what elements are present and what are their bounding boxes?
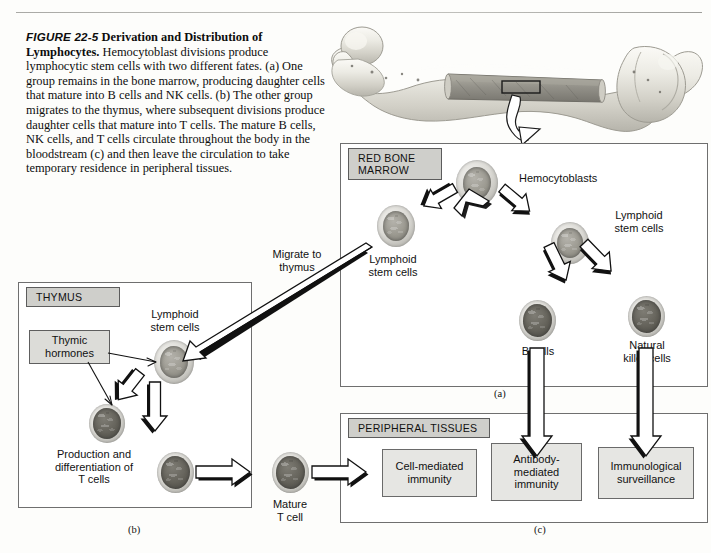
figure-canvas: FIGURE 22-5 Derivation and Distribution …	[0, 0, 711, 553]
cell-natural-killer-cell	[628, 296, 665, 337]
box-immunological-surveillance: Immunological surveillance	[598, 447, 694, 499]
cell-lymphoid-stem-left	[377, 205, 415, 247]
panel-tag-thymus: THYMUS	[26, 287, 120, 307]
cell-lymphoid-stem-right	[551, 222, 589, 264]
panel-letter-a: (a)	[494, 388, 506, 399]
cell-thymus-t-cell	[157, 452, 194, 493]
cell-mature-t-cell	[272, 452, 309, 493]
panel-tag-peripheral-tissues: PERIPHERAL TISSUES	[348, 418, 490, 438]
cell-hemocytoblast	[456, 160, 498, 206]
cell-thymus-lymphoid-stem	[154, 340, 194, 384]
box-thymic-hormones: Thymic hormones	[29, 330, 110, 364]
label-lymphoid-stem-right: Lymphoid stem cells	[596, 209, 682, 234]
panel-tag-red-bone-marrow: RED BONE MARROW	[348, 148, 442, 180]
label-lymphoid-stem-left: Lymphoid stem cells	[341, 253, 445, 278]
label-hemocytoblasts: Hemocytoblasts	[519, 172, 649, 185]
box-antibody-mediated-immunity: Antibody- mediated immunity	[491, 443, 582, 501]
cell-b-cell	[519, 300, 556, 341]
panel-letter-c: (c)	[534, 524, 546, 535]
label-b-cells: B cells	[500, 345, 576, 358]
box-cell-mediated-immunity: Cell-mediated immunity	[382, 449, 477, 497]
label-mature-t-cell: Mature T cell	[252, 498, 328, 523]
cell-differentiating-t-cell	[89, 404, 125, 443]
panel-letter-b: (b)	[128, 524, 140, 535]
label-thymus-lymphoid-stem: Lymphoid stem cells	[131, 308, 219, 333]
label-natural-killer-cells: Natural killer cells	[604, 339, 690, 364]
label-production-differentiation: Production and differentiation of T cell…	[36, 448, 152, 486]
label-migrate-to-thymus: Migrate to thymus	[253, 248, 341, 273]
